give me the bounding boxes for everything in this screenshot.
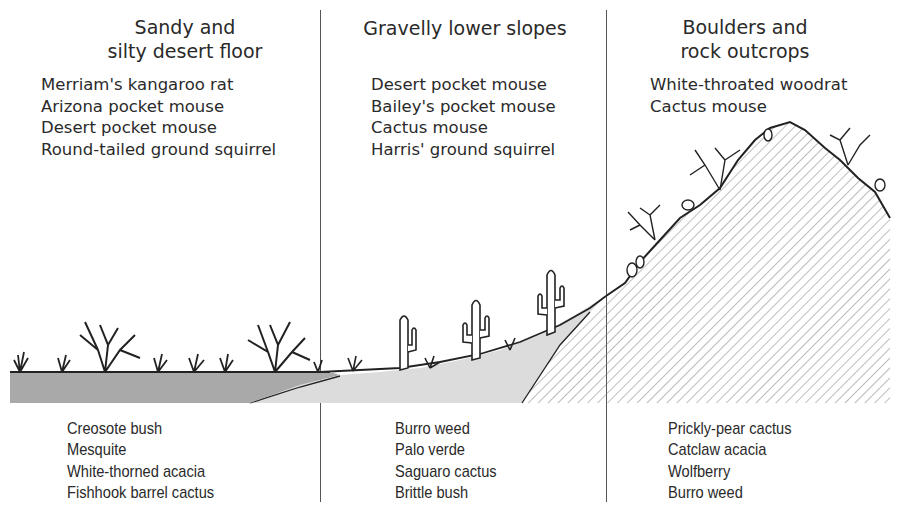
list-item: Burro weed xyxy=(668,482,792,503)
list-item: Catclaw acacia xyxy=(668,439,792,460)
list-item: Brittle bush xyxy=(395,482,497,503)
list-item: Creosote bush xyxy=(67,418,214,439)
list-item: Burro weed xyxy=(395,418,497,439)
rock-outcrop xyxy=(522,122,890,403)
list-item: Saguaro cactus xyxy=(395,461,497,482)
plant-list-desert-floor: Creosote bush Mesquite White-thorned aca… xyxy=(67,418,214,503)
plant-list-boulders: Prickly-pear cactus Catclaw acacia Wolfb… xyxy=(668,418,792,503)
list-item: Wolfberry xyxy=(668,461,792,482)
list-item: Mesquite xyxy=(67,439,214,460)
list-item: Prickly-pear cactus xyxy=(668,418,792,439)
list-item: Fishhook barrel cactus xyxy=(67,482,214,503)
plant-list-gravelly-slopes: Burro weed Palo verde Saguaro cactus Bri… xyxy=(395,418,497,503)
list-item: White-thorned acacia xyxy=(67,461,214,482)
list-item: Palo verde xyxy=(395,439,497,460)
